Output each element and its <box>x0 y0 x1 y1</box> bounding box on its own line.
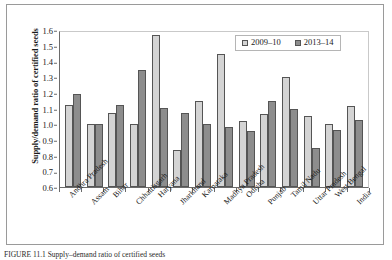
y-axis-tick-label: 0.7 <box>42 168 53 177</box>
y-axis-tick-mark <box>54 157 57 158</box>
y-axis-tick-mark <box>54 110 57 111</box>
y-axis-tick-mark <box>54 125 57 126</box>
figure-caption: FIGURE 11.1 Supply–demand ratio of certi… <box>4 250 388 260</box>
y-axis-tick-mark <box>54 78 57 79</box>
light-gray-swatch-icon <box>242 40 248 46</box>
legend-item-2009-10[interactable]: 2009–10 <box>242 38 281 47</box>
bar-group <box>301 32 323 187</box>
y-axis-tick-label: 1.3 <box>42 74 53 83</box>
legend: 2009–10 2013–14 <box>235 35 341 51</box>
bar[interactable] <box>95 124 103 187</box>
y-axis-tick-mark <box>54 62 57 63</box>
bar[interactable] <box>195 101 203 187</box>
legend-label: 2013–14 <box>304 38 334 47</box>
figure-container: Supply/demand ratio of certified seeds 1… <box>0 0 392 260</box>
bar-group <box>214 32 236 187</box>
x-axis-category-labels: Andhra PradeshAssamBiharChhattisgarhHary… <box>59 191 369 249</box>
legend-item-2013-14[interactable]: 2013–14 <box>295 38 334 47</box>
bar[interactable] <box>203 124 211 187</box>
y-axis-tick-mark <box>54 31 57 32</box>
y-axis-tick-mark <box>54 172 57 173</box>
bar[interactable] <box>217 54 225 187</box>
bar-group <box>236 32 258 187</box>
bar[interactable] <box>260 114 268 187</box>
bar[interactable] <box>73 94 81 187</box>
bar-group <box>344 32 366 187</box>
bar[interactable] <box>181 113 189 187</box>
bar[interactable] <box>138 70 146 187</box>
y-axis-tick-label: 0.8 <box>42 152 53 161</box>
y-axis-tick-labels: 1.61.51.41.31.21.11.00.90.80.70.6 <box>29 31 57 188</box>
x-axis-category-label: India <box>355 188 373 206</box>
bar[interactable] <box>108 113 116 187</box>
chart-frame: Supply/demand ratio of certified seeds 1… <box>6 4 384 245</box>
legend-label: 2009–10 <box>251 38 281 47</box>
y-axis-tick-mark <box>54 47 57 48</box>
y-axis-tick-label: 1.2 <box>42 90 53 99</box>
bar-group <box>149 32 171 187</box>
bar[interactable] <box>268 101 276 187</box>
bar-group <box>171 32 193 187</box>
y-axis-tick-label: 1.1 <box>42 105 53 114</box>
bar[interactable] <box>130 124 138 187</box>
bar-group <box>323 32 345 187</box>
bar[interactable] <box>290 109 298 188</box>
y-axis-tick-label: 1.5 <box>42 42 53 51</box>
bar-group <box>192 32 214 187</box>
y-axis-tick-mark <box>54 188 57 189</box>
y-axis-tick-label: 0.9 <box>42 137 53 146</box>
y-axis-tick-mark <box>54 141 57 142</box>
y-axis-tick-label: 1.6 <box>42 27 53 36</box>
y-axis-tick-mark <box>54 94 57 95</box>
y-axis-tick-label: 0.6 <box>42 184 53 193</box>
bar-group <box>279 32 301 187</box>
bar-group <box>127 32 149 187</box>
bar-group <box>62 32 84 187</box>
dark-gray-swatch-icon <box>295 40 301 46</box>
y-axis-tick-label: 1.0 <box>42 121 53 130</box>
bar[interactable] <box>65 105 73 187</box>
bar[interactable] <box>152 35 160 187</box>
bar[interactable] <box>282 77 290 187</box>
y-axis-tick-label: 1.4 <box>42 58 53 67</box>
bar[interactable] <box>116 105 124 187</box>
